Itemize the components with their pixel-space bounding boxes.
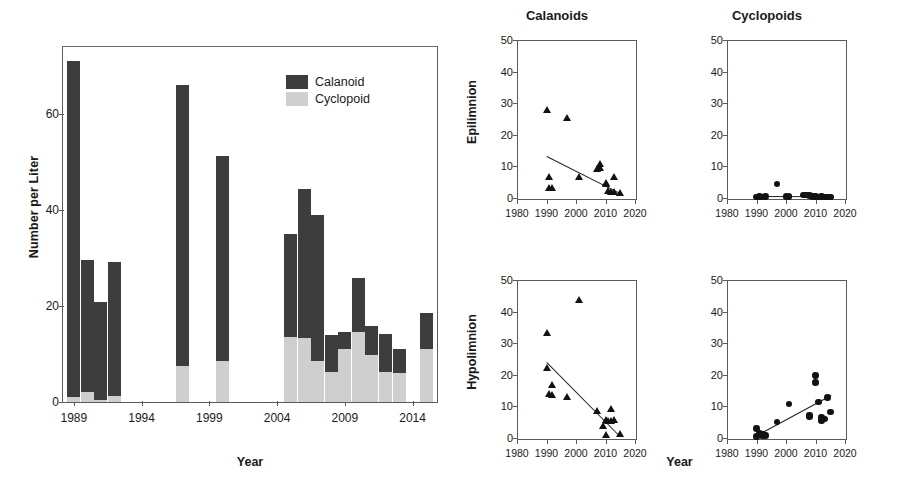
scatter-y-tick-label: 50 [493, 274, 513, 286]
data-point-triangle [593, 407, 601, 414]
scatter-y-tick-mark [723, 40, 727, 41]
bar-x-tick-label: 2004 [254, 411, 300, 425]
scatter-x-tick-mark [845, 200, 846, 204]
scatter-x-tick-mark [606, 200, 607, 204]
bar-segment-calanoid [365, 326, 378, 355]
scatter-y-tick-mark [513, 406, 517, 407]
data-point-triangle [563, 114, 571, 121]
scatter-x-tick-mark [786, 440, 787, 444]
scatter-y-tick-mark [513, 438, 517, 439]
row-label-hypolimnion: Hypolimnion [465, 277, 479, 427]
scatter-x-tick-mark [576, 440, 577, 444]
bar-2010 [352, 278, 365, 402]
scatter-y-tick-label: 50 [703, 34, 723, 46]
scatter-plot-calanoids-epilimnion: 0102030405019801990200020102020 [517, 40, 637, 200]
scatter-x-tick-mark [816, 200, 817, 204]
data-point-triangle [545, 173, 553, 180]
data-point-triangle [596, 164, 604, 171]
scatter-x-tick-mark [786, 200, 787, 204]
scatter-y-tick-mark [723, 166, 727, 167]
bar-segment-cyclopoid [298, 338, 311, 402]
bar-2000 [216, 156, 229, 402]
bar-x-tick-label: 2014 [390, 411, 436, 425]
scatter-y-tick-mark [513, 72, 517, 73]
scatter-y-tick-label: 0 [703, 432, 723, 444]
bar-segment-cyclopoid [108, 396, 121, 402]
scatter-y-tick-mark [513, 280, 517, 281]
data-point-triangle [616, 430, 624, 437]
bar-y-tick-label: 0 [37, 395, 59, 409]
bar-segment-cyclopoid [420, 349, 433, 402]
bar-y-tick-mark [59, 210, 64, 211]
scatter-x-tick-mark [547, 200, 548, 204]
data-point-triangle [563, 393, 571, 400]
scatter-y-tick-label: 0 [493, 192, 513, 204]
bar-segment-cyclopoid [284, 337, 297, 402]
data-point-triangle [548, 381, 556, 388]
scatter-grid-x-axis-label: Year [462, 455, 897, 469]
bar-x-tick-mark [413, 401, 414, 406]
scatter-x-tick-mark [547, 440, 548, 444]
bar-x-tick-label: 1989 [51, 411, 97, 425]
scatter-y-tick-label: 50 [493, 34, 513, 46]
scatter-y-tick-mark [513, 198, 517, 199]
data-point-circle [812, 379, 819, 386]
bar-y-tick-mark [59, 306, 64, 307]
bar-segment-cyclopoid [379, 372, 392, 402]
bar-segment-calanoid [298, 189, 311, 338]
plot-frame [517, 280, 637, 440]
scatter-x-tick-mark [845, 440, 846, 444]
legend-swatch-calanoid [286, 75, 308, 89]
scatter-plot-calanoids-hypolimnion: 0102030405019801990200020102020 [517, 280, 637, 440]
scatter-y-tick-mark [513, 312, 517, 313]
legend-swatch-cyclopoid [286, 92, 308, 106]
bar-2008 [325, 335, 338, 402]
scatter-y-tick-mark [513, 375, 517, 376]
bar-x-tick-mark [142, 401, 143, 406]
bar-x-tick-mark [277, 401, 278, 406]
bar-segment-cyclopoid [393, 373, 406, 402]
scatter-y-tick-label: 30 [493, 337, 513, 349]
bar-segment-calanoid [67, 61, 80, 397]
scatter-x-tick-mark [757, 200, 758, 204]
scatter-y-tick-label: 10 [703, 160, 723, 172]
bar-x-tick-label: 1999 [186, 411, 232, 425]
scatter-x-tick-mark [517, 200, 518, 204]
legend-item-calanoid: Calanoid [286, 75, 370, 89]
scatter-y-tick-mark [723, 280, 727, 281]
data-point-triangle [607, 405, 615, 412]
scatter-y-tick-label: 20 [703, 129, 723, 141]
scatter-y-tick-label: 20 [493, 369, 513, 381]
scatter-x-tick-label: 2020 [618, 207, 652, 219]
scatter-y-tick-label: 0 [493, 432, 513, 444]
bar-chart-x-axis-label: Year [62, 455, 438, 469]
bar-segment-calanoid [420, 313, 433, 349]
bar-1992 [108, 262, 121, 402]
scatter-y-tick-label: 10 [493, 160, 513, 172]
scatter-y-tick-label: 20 [703, 369, 723, 381]
scatter-y-tick-label: 40 [703, 306, 723, 318]
scatter-y-tick-mark [513, 103, 517, 104]
bar-1989 [67, 61, 80, 402]
scatter-plot-cyclopoids-hypolimnion: 0102030405019801990200020102020 [727, 280, 847, 440]
scatter-y-tick-mark [723, 312, 727, 313]
data-point-circle [815, 399, 822, 406]
data-point-circle [786, 193, 793, 200]
scatter-y-tick-mark [513, 40, 517, 41]
bar-segment-cyclopoid [325, 372, 338, 402]
bar-x-tick-mark [209, 401, 210, 406]
bar-segment-calanoid [284, 234, 297, 337]
scatter-x-tick-mark [816, 440, 817, 444]
bar-1991 [94, 302, 107, 402]
bar-segment-cyclopoid [365, 355, 378, 402]
bar-2013 [393, 349, 406, 402]
scatter-y-tick-mark [513, 166, 517, 167]
bar-y-tick-mark [59, 114, 64, 115]
legend-label-calanoid: Calanoid [315, 75, 364, 89]
bar-segment-cyclopoid [67, 397, 80, 402]
data-point-triangle [543, 106, 551, 113]
bar-segment-calanoid [338, 332, 351, 349]
data-point-triangle [610, 173, 618, 180]
data-point-circle [762, 193, 769, 200]
data-point-circle [806, 413, 813, 420]
